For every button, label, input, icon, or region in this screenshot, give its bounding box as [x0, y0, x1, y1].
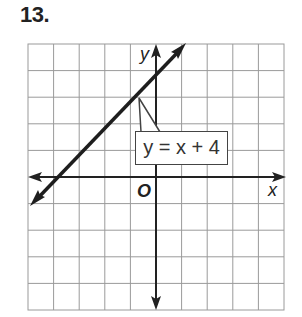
equation-label: y = x + 4	[143, 136, 220, 158]
x-axis-label: x	[267, 180, 278, 200]
y-axis-label: y	[138, 44, 150, 64]
equation-callout: y = x + 4	[135, 131, 228, 165]
origin-label: O	[137, 181, 151, 201]
